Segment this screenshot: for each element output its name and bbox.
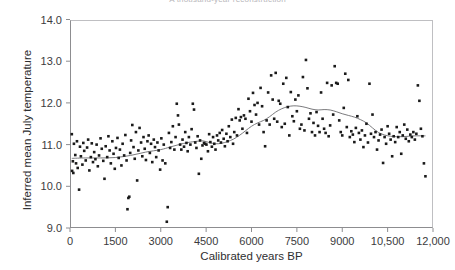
x-tick-label: 4500 [194,236,218,247]
x-tick-label: 12,000 [416,236,450,247]
x-tick-label: 6000 [239,236,263,247]
x-tick-label: 1500 [103,236,127,247]
chart-canvas [0,0,455,270]
y-tick-label: 14.0 [26,14,62,25]
y-tick-label: 11.0 [26,139,62,150]
x-tick-label: 9000 [330,236,354,247]
x-axis-label: Calibrated years BP [70,250,433,262]
x-tick-label: 3000 [149,236,173,247]
y-tick-label: 9.0 [26,223,62,234]
x-tick-label: 0 [67,236,73,247]
y-axis-label: Inferred mean July temperature [21,15,33,245]
axis-ticks [66,20,433,233]
y-tick-label: 10.0 [26,181,62,192]
x-tick-label: 7500 [285,236,309,247]
x-tick-label: 10,500 [371,236,405,247]
scatter-points [71,59,427,223]
chart-container: A thousand-year reconstruction Inferred … [0,0,455,270]
y-tick-label: 13.0 [26,56,62,67]
y-tick-label: 12.0 [26,97,62,108]
